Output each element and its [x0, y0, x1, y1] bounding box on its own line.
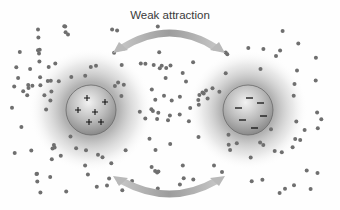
- bottom-attraction-arrow: [113, 176, 225, 194]
- negative-particle: [223, 85, 273, 135]
- positive-particle: [66, 85, 116, 135]
- weak-attraction-label: Weak attraction: [0, 9, 340, 21]
- top-attraction-arrow: [113, 33, 225, 53]
- diagram-canvas: [0, 0, 340, 210]
- ion-cloud-diagram: Weak attraction: [0, 0, 340, 210]
